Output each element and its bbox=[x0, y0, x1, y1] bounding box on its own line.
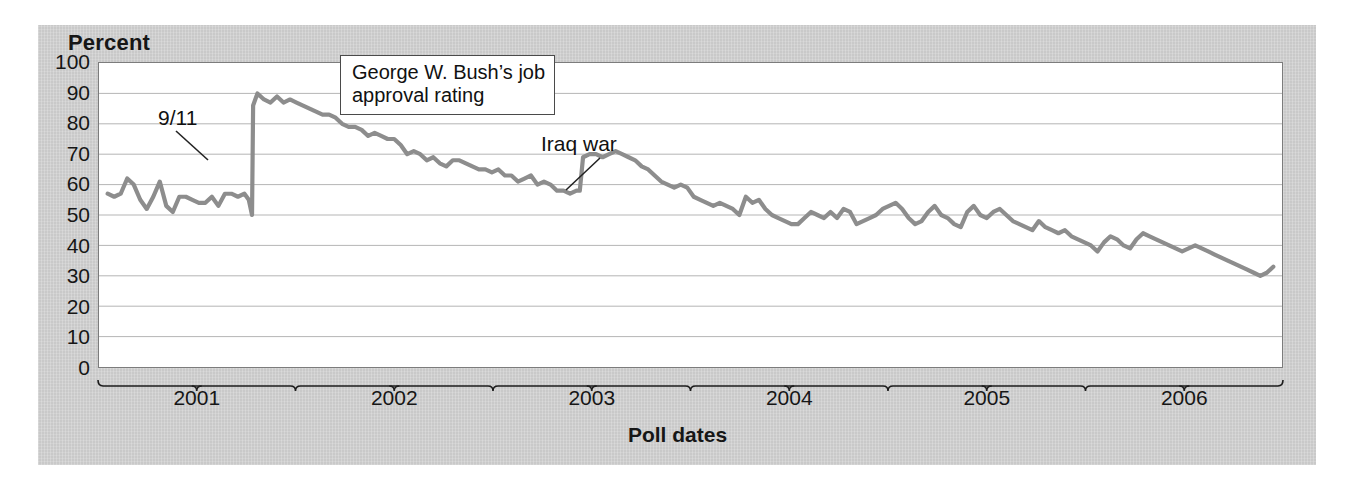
x-tick-label-2003: 2003 bbox=[493, 386, 691, 410]
x-tick-label-2005: 2005 bbox=[888, 386, 1086, 410]
x-tick-label-2004: 2004 bbox=[691, 386, 889, 410]
y-tick-label-80: 80 bbox=[0, 112, 90, 133]
y-tick-label-70: 70 bbox=[0, 143, 90, 164]
y-tick-label-100: 100 bbox=[0, 51, 90, 72]
y-tick-label-50: 50 bbox=[0, 204, 90, 225]
figure-container: Percent 1009080706050403020100 200120022… bbox=[0, 0, 1355, 487]
x-axis-title: Poll dates bbox=[0, 423, 1355, 447]
gridlines bbox=[99, 93, 1282, 336]
annotation-iraq-war: Iraq war bbox=[541, 132, 617, 156]
y-tick-label-30: 30 bbox=[0, 265, 90, 286]
y-tick-label-20: 20 bbox=[0, 296, 90, 317]
x-tick-label-2002: 2002 bbox=[296, 386, 494, 410]
x-tick-label-2001: 2001 bbox=[98, 386, 296, 410]
y-tick-label-40: 40 bbox=[0, 235, 90, 256]
y-tick-label-60: 60 bbox=[0, 173, 90, 194]
plot-area bbox=[98, 62, 1283, 368]
y-tick-label-90: 90 bbox=[0, 82, 90, 103]
chart-title-callout: George W. Bush’s job approval rating bbox=[340, 55, 555, 115]
y-tick-label-10: 10 bbox=[0, 326, 90, 347]
line-chart-svg bbox=[99, 63, 1282, 367]
x-tick-label-2006: 2006 bbox=[1086, 386, 1284, 410]
y-tick-label-0: 0 bbox=[0, 357, 90, 378]
annotation-911: 9/11 bbox=[158, 106, 197, 130]
